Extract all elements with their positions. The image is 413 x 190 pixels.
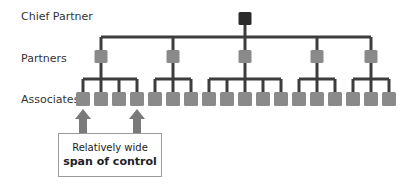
connectors (83, 25, 389, 92)
partner-nodes (95, 50, 378, 63)
arrow-up-icon (129, 109, 145, 133)
associate-nodes (76, 92, 396, 106)
callout-line1: Relatively wide (59, 141, 161, 155)
arrow-up-icon (75, 109, 91, 133)
span-arrows (75, 109, 145, 133)
callout-line2: span of control (59, 155, 161, 169)
span-of-control-callout: Relatively wide span of control (58, 133, 162, 177)
chief-partner-node (239, 12, 252, 25)
